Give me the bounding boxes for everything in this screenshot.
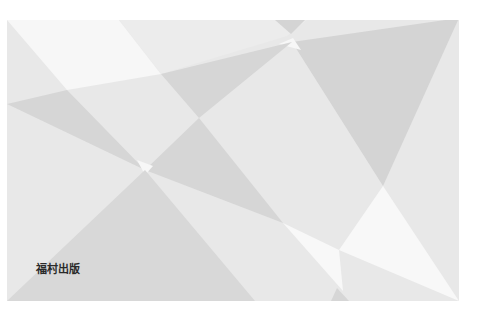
book-cover: 福村出版 xyxy=(7,20,459,301)
geometric-pattern xyxy=(7,20,459,301)
publisher-name: 福村出版 xyxy=(36,260,80,276)
